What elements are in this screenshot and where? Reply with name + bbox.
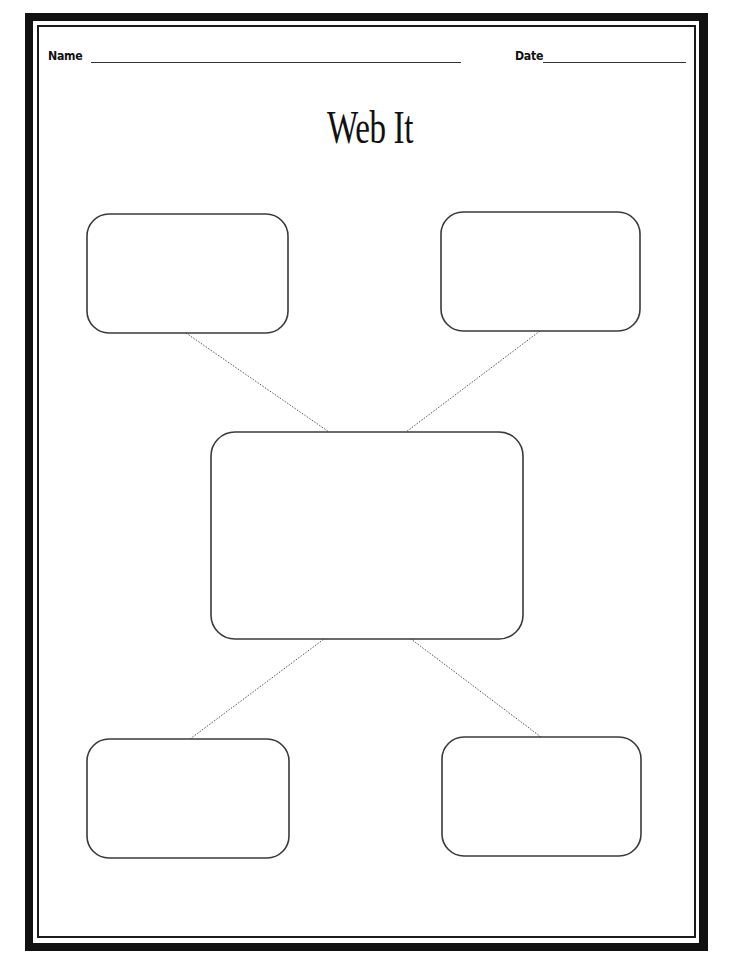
connector-top-right <box>406 331 540 432</box>
connector-bottom-right <box>411 639 541 737</box>
node-bottom-left[interactable] <box>87 739 289 858</box>
node-center[interactable] <box>211 432 523 639</box>
web-diagram <box>0 0 732 958</box>
connector-top-left <box>186 333 329 432</box>
node-top-right[interactable] <box>441 212 640 331</box>
node-bottom-right[interactable] <box>442 737 641 856</box>
connector-bottom-left <box>190 639 324 739</box>
node-top-left[interactable] <box>87 214 288 333</box>
